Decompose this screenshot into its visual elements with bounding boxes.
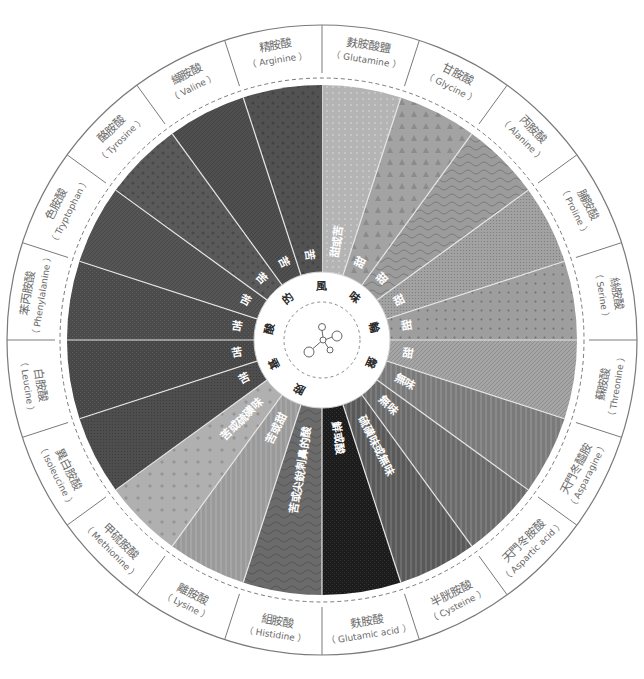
taste-label: 苦: [302, 248, 318, 261]
taste-label: 甜: [401, 318, 414, 334]
center-hub: 胺基酸的風味輪盤: [254, 272, 390, 408]
taste-label: 苦: [230, 345, 243, 361]
title-char: 風: [316, 280, 327, 293]
amino-acid-flavor-wheel: 麩胺酸鹽（ Glutamine ）甘胺酸（ Glycine ）丙胺酸（ Alan…: [0, 0, 644, 679]
taste-label: 甜: [401, 345, 414, 361]
taste-label: 苦: [230, 318, 243, 334]
